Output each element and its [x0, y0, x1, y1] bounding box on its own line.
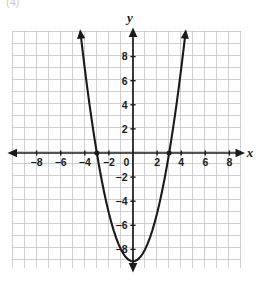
x-tick-label: −4	[79, 156, 91, 168]
x-tick-label: 6	[202, 156, 208, 168]
x-axis-label: x	[246, 145, 254, 160]
x-tick-label: 2	[154, 156, 160, 168]
y-tick-label: 2	[122, 123, 128, 135]
x-tick-label: 0	[124, 156, 130, 168]
x-tick-label: −8	[31, 156, 43, 168]
y-tick-label: 4	[122, 99, 128, 111]
x-tick-label: −2	[103, 156, 115, 168]
x-tick-label: 4	[178, 156, 184, 168]
corner-label: (4)	[6, 0, 19, 8]
y-axis-label: y	[125, 10, 133, 25]
y-tick-label: 8	[122, 50, 128, 62]
y-tick-label: −4	[116, 195, 128, 207]
y-tick-label: −2	[116, 171, 128, 183]
y-tick-label: −6	[116, 219, 128, 231]
x-tick-label: −6	[55, 156, 67, 168]
y-tick-label: 6	[122, 75, 128, 87]
chart-background	[0, 0, 263, 283]
x-tick-label: 8	[226, 156, 232, 168]
parabola-graph-figure: −8−6−4−2024688642−2−4−6−8xy	[0, 0, 263, 283]
intercept-dot	[167, 151, 172, 156]
intercept-dot	[94, 151, 99, 156]
